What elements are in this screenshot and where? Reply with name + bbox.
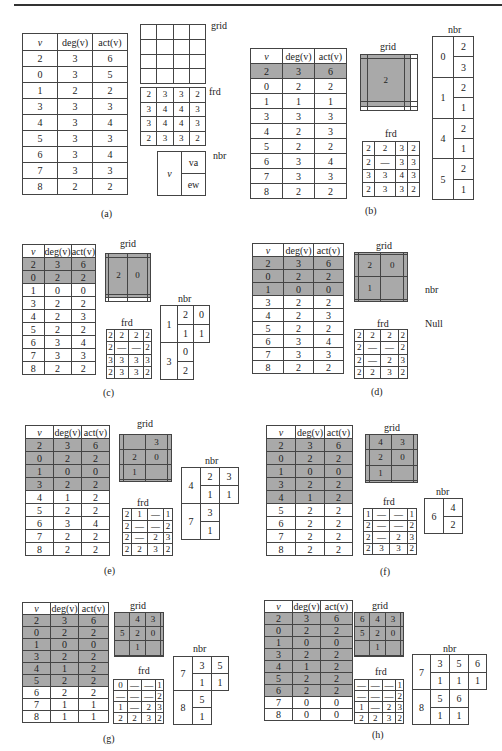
table-cell: —: [382, 691, 396, 702]
table-cell: act(v): [325, 426, 353, 439]
table-cell: 0: [293, 709, 321, 721]
table-cell: 0: [23, 627, 51, 639]
table-row: [355, 299, 408, 301]
table-cell: 6: [325, 439, 353, 452]
table-cell: 5: [23, 675, 51, 687]
table-cell: 3: [58, 163, 93, 179]
table-cell: 4: [370, 435, 392, 450]
table-cell: 2: [201, 468, 220, 486]
table-cell: 0: [23, 67, 58, 83]
table-cell: 0: [71, 284, 95, 297]
table-cell: 2: [123, 532, 132, 544]
table-cell: 3: [253, 296, 284, 309]
table-cell: 2: [363, 155, 375, 169]
table-cell: 2: [363, 142, 375, 156]
table-cell: 4: [396, 169, 408, 183]
frd-d: 2222 2——2 2—23 2232: [354, 329, 408, 379]
table-cell: 0: [54, 465, 82, 478]
table-cell: 2: [189, 88, 205, 103]
table-cell: 2: [370, 450, 392, 465]
table-row: 1—23: [355, 702, 404, 713]
frd-a: 2332 3443 3443 2332: [140, 87, 206, 146]
grid-label-c: grid: [120, 238, 136, 249]
table-cell: 8: [267, 543, 296, 556]
table-cell: 1: [220, 486, 239, 504]
table-cell: 1: [51, 663, 79, 675]
table-cell: 2: [51, 675, 79, 687]
table-cell: 2: [398, 342, 407, 354]
frd-label-c: frd: [121, 317, 133, 328]
table-cell: 2: [141, 88, 157, 103]
table-row: 423: [253, 309, 344, 322]
nbr-label-e: nbr: [205, 455, 218, 466]
table-cell: deg(v): [293, 601, 321, 613]
table-cell: act(v): [79, 603, 109, 615]
vertex-table-e: vdeg(v)act(v) 236 022 100 322 412 522 63…: [25, 425, 110, 556]
table-cell: 2: [93, 179, 128, 195]
table-cell: [161, 655, 164, 656]
frd-e: 21—1 2——2 2—23 2232: [122, 508, 173, 556]
table-row: 2332: [364, 543, 417, 555]
table-cell: 3: [408, 155, 420, 169]
frd-h: ———1 ———2 1—23 2232: [354, 679, 404, 724]
table-cell: 2: [321, 685, 353, 697]
table-cell: 0: [267, 452, 296, 465]
table-cell: 0: [265, 625, 293, 637]
table-cell: 2: [381, 354, 398, 366]
table-cell: —: [373, 532, 390, 544]
header-v: v: [23, 34, 58, 51]
table-cell: 3: [407, 532, 416, 544]
nbr-c: 120 11 30 2: [160, 305, 210, 380]
table-cell: 3: [374, 169, 396, 183]
table-cell: [141, 39, 157, 54]
table-cell: [130, 655, 145, 656]
table-cell: 2: [58, 179, 93, 195]
table-row: 236: [23, 51, 128, 67]
table-row: 2332: [141, 131, 206, 146]
table-cell: [115, 655, 130, 656]
table-row: 1—23: [114, 702, 164, 713]
table-cell: [168, 465, 172, 480]
table-cell: 2: [364, 366, 381, 378]
table-row: 722: [267, 530, 353, 543]
table-cell: 6: [23, 687, 51, 699]
table-cell: 3: [408, 169, 420, 183]
table-row: 2332: [363, 183, 420, 197]
table-cell: [141, 25, 157, 40]
table-cell: [367, 106, 404, 110]
table-cell: [168, 480, 172, 482]
table-row: [141, 39, 206, 54]
table-cell: 6: [265, 685, 293, 697]
table-row: 20: [106, 257, 151, 294]
table-cell: 2: [315, 139, 347, 154]
table-cell: 1: [201, 486, 220, 504]
table-cell: 3: [374, 183, 396, 197]
grid-c: 20: [105, 253, 151, 302]
table-cell: 5: [450, 655, 469, 673]
table-row: 533: [23, 131, 128, 147]
table-row: 2232: [363, 142, 420, 156]
table-cell: 2: [408, 183, 420, 197]
table-cell: 3: [23, 99, 58, 115]
table-cell: 5: [355, 627, 370, 641]
table-cell: 2: [454, 37, 474, 57]
table-cell: 3: [382, 713, 396, 724]
table-cell: 1: [161, 306, 178, 343]
table-row: 1: [120, 465, 172, 480]
table-cell: 2: [284, 309, 314, 322]
table-cell: 3: [396, 142, 408, 156]
table-cell: 3: [157, 88, 173, 103]
table-row: 236: [23, 258, 96, 271]
table-cell: [157, 54, 173, 69]
grid-label-d: grid: [376, 240, 392, 251]
table-cell: 2: [164, 520, 173, 532]
table-cell: 0: [293, 637, 321, 649]
table-row: 423: [23, 310, 96, 323]
table-cell: 3: [58, 147, 93, 163]
nbr-label-h: nbr: [443, 643, 456, 654]
table-cell: 3: [315, 124, 347, 139]
table-cell: —: [374, 155, 396, 169]
table-cell: 2: [390, 532, 407, 544]
table-row: 100: [253, 283, 344, 296]
table-cell: 2: [142, 702, 156, 713]
